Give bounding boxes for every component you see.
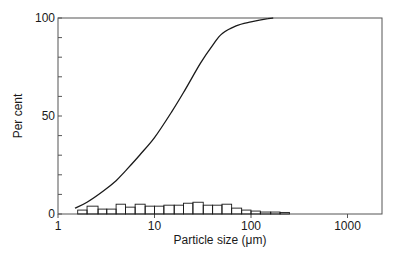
histogram-bar xyxy=(145,206,154,214)
x-axis-ticks: 1101001000 xyxy=(55,214,362,233)
particle-size-chart: 050100 1101001000 Per cent Particle size… xyxy=(0,0,401,253)
x-tick-label: 1 xyxy=(55,219,62,233)
histogram-bar xyxy=(271,212,280,214)
histogram-bar xyxy=(174,205,183,214)
histogram-bar xyxy=(116,204,125,214)
x-tick-label: 10 xyxy=(148,219,162,233)
x-tick-label: 100 xyxy=(241,219,261,233)
histogram-bar xyxy=(280,212,289,214)
histogram-bar xyxy=(87,206,98,214)
histogram-bar xyxy=(193,202,203,214)
histogram-bar xyxy=(98,209,107,214)
histogram-bar xyxy=(107,209,116,214)
histogram-bar xyxy=(222,204,232,214)
y-axis-label: Per cent xyxy=(11,93,25,138)
histogram-bar xyxy=(242,210,251,214)
histogram-bar xyxy=(260,212,270,214)
histogram-bar xyxy=(135,204,145,214)
histogram-bar xyxy=(184,203,193,214)
histogram-bar xyxy=(155,206,164,214)
histogram-bar xyxy=(232,208,242,214)
frequency-histogram xyxy=(78,202,290,214)
histogram-bar xyxy=(78,210,87,214)
histogram-bar xyxy=(213,205,222,214)
histogram-bar xyxy=(164,205,174,214)
plot-frame xyxy=(58,18,382,214)
histogram-bar xyxy=(251,211,260,214)
y-tick-label: 50 xyxy=(42,109,56,123)
histogram-bar xyxy=(125,207,135,214)
histogram-bar xyxy=(203,205,212,214)
x-tick-label: 1000 xyxy=(334,219,361,233)
y-tick-label: 100 xyxy=(35,11,55,25)
cumulative-curve xyxy=(75,18,273,208)
x-axis-label: Particle size (μm) xyxy=(174,233,267,247)
